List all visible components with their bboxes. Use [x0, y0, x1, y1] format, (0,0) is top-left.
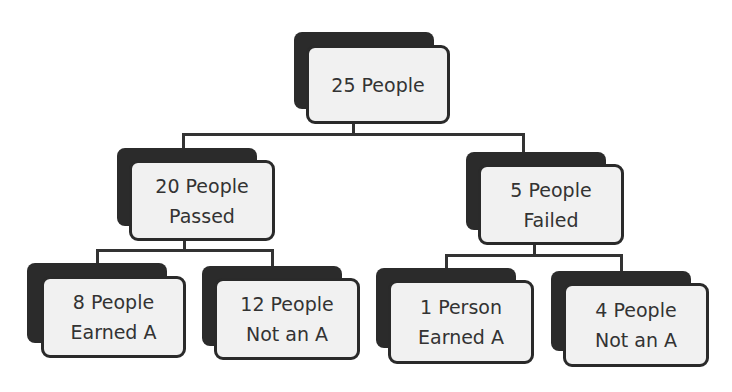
connector-to-failed	[522, 133, 525, 153]
not-a-left-line2: Not an A	[246, 319, 328, 349]
connector-to-passed	[182, 133, 185, 148]
not-a-left-node: 12 People Not an A	[214, 278, 360, 360]
root-node: 25 People	[306, 45, 450, 124]
earned-a-left-line2: Earned A	[71, 317, 157, 347]
not-a-right-line2: Not an A	[595, 325, 677, 355]
earned-a-right-line2: Earned A	[418, 322, 504, 352]
connector-to-earned-a-right	[445, 254, 448, 268]
earned-a-right-node: 1 Person Earned A	[388, 280, 534, 364]
earned-a-right-line1: 1 Person	[420, 292, 502, 322]
passed-node-line1: 20 People	[155, 171, 248, 201]
passed-node: 20 People Passed	[129, 160, 275, 241]
not-a-right-line1: 4 People	[595, 295, 676, 325]
connector-level1-horizontal	[182, 133, 525, 136]
failed-node-line1: 5 People	[510, 175, 591, 205]
earned-a-left-node: 8 People Earned A	[41, 276, 186, 358]
not-a-left-line1: 12 People	[240, 289, 333, 319]
connector-passed-horizontal	[96, 249, 274, 252]
passed-node-line2: Passed	[169, 201, 235, 231]
connector-to-not-a-left	[271, 249, 274, 266]
failed-node: 5 People Failed	[478, 164, 624, 245]
root-node-label: 25 People	[331, 70, 424, 100]
failed-node-line2: Failed	[523, 205, 578, 235]
earned-a-left-line1: 8 People	[73, 287, 154, 317]
not-a-right-node: 4 People Not an A	[563, 283, 709, 367]
connector-to-earned-a-left	[96, 249, 99, 263]
connector-to-not-a-right	[620, 254, 623, 271]
connector-failed-horizontal	[445, 254, 623, 257]
